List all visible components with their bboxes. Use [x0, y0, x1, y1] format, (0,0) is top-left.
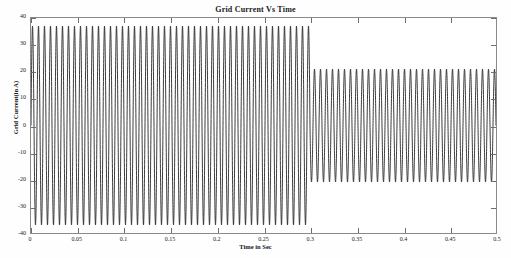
y-tick-label: -20 [0, 176, 26, 182]
x-tick-label: 0.35 [337, 236, 377, 242]
x-tick-label: 0.45 [430, 236, 470, 242]
y-tick-mark-right [491, 208, 496, 209]
x-tick-mark [405, 228, 406, 233]
x-tick-label: 0.2 [197, 236, 237, 242]
y-tick-mark-right [491, 18, 496, 19]
plot-area [30, 17, 497, 234]
y-tick-label: 0 [0, 122, 26, 128]
grid-current-line [31, 26, 496, 225]
x-tick-mark [124, 228, 125, 233]
y-tick-mark [31, 72, 36, 73]
x-tick-label: 0.1 [103, 236, 143, 242]
y-tick-label: 30 [0, 40, 26, 46]
y-tick-mark-right [491, 99, 496, 100]
y-tick-mark [31, 154, 36, 155]
y-tick-mark-right [491, 72, 496, 73]
x-tick-mark-top [265, 18, 266, 23]
x-tick-label: 0.3 [290, 236, 330, 242]
x-tick-mark [171, 228, 172, 233]
x-axis-label: Time in Sec [0, 243, 511, 250]
y-tick-label: 10 [0, 94, 26, 100]
x-tick-mark-top [358, 18, 359, 23]
x-tick-label: 0.5 [477, 236, 511, 242]
x-tick-mark-top [124, 18, 125, 23]
figure-canvas: Grid Current Vs Time Time in Sec Grid Cu… [0, 0, 511, 258]
x-tick-label: 0.15 [150, 236, 190, 242]
x-tick-mark [311, 228, 312, 233]
x-tick-label: 0 [10, 236, 50, 242]
y-tick-label: 40 [0, 13, 26, 19]
waveform-trace [31, 18, 496, 233]
y-tick-mark-right [491, 154, 496, 155]
y-tick-label: 20 [0, 67, 26, 73]
x-tick-mark-top [31, 18, 32, 23]
x-tick-label: 0.05 [57, 236, 97, 242]
x-tick-mark-top [311, 18, 312, 23]
y-tick-mark [31, 127, 36, 128]
y-tick-mark [31, 99, 36, 100]
x-tick-mark-top [405, 18, 406, 23]
y-tick-mark-right [491, 181, 496, 182]
x-tick-label: 0.4 [384, 236, 424, 242]
x-tick-label: 0.25 [244, 236, 284, 242]
x-tick-mark-top [451, 18, 452, 23]
x-tick-mark [218, 228, 219, 233]
x-tick-mark [358, 228, 359, 233]
x-tick-mark-top [218, 18, 219, 23]
x-tick-mark [265, 228, 266, 233]
y-tick-mark-right [491, 45, 496, 46]
y-tick-mark [31, 45, 36, 46]
y-tick-label: -30 [0, 203, 26, 209]
x-tick-mark-top [78, 18, 79, 23]
x-tick-mark [451, 228, 452, 233]
x-tick-mark [78, 228, 79, 233]
y-tick-mark [31, 208, 36, 209]
y-tick-label: -10 [0, 149, 26, 155]
chart-title: Grid Current Vs Time [0, 5, 511, 14]
y-tick-mark [31, 181, 36, 182]
x-tick-mark-top [171, 18, 172, 23]
y-tick-mark-right [491, 127, 496, 128]
x-tick-mark [31, 228, 32, 233]
